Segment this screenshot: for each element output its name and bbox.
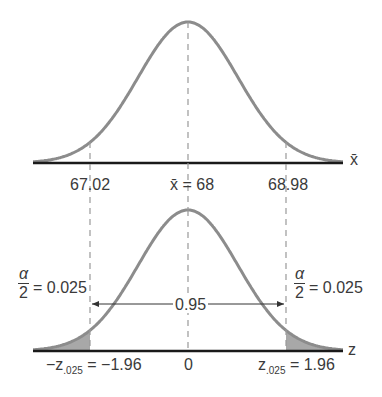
tick-label-z-lower: −z.025 = −1.96 [46, 357, 142, 376]
tick-label-mean: x̄ = 68 [170, 177, 214, 193]
top-axis-label: x̄ [350, 152, 358, 168]
top-distribution [33, 22, 343, 163]
alpha-half-right-fraction: α 2 [294, 266, 305, 301]
fraction-denominator: 2 [294, 284, 305, 301]
central-area-label: 0.95 [173, 297, 208, 313]
mean-value: = 68 [178, 176, 214, 193]
z-upper-value: = 1.96 [285, 356, 334, 373]
alpha-symbol: α [18, 266, 29, 284]
tick-label-zero: 0 [184, 357, 193, 373]
z-lower-value: = −1.96 [83, 356, 142, 373]
alpha-symbol: α [294, 266, 305, 284]
tick-label-lower: 67.02 [70, 177, 110, 193]
bottom-axis-label: z [348, 342, 356, 358]
alpha-half-right-value: = 0.025 [309, 280, 363, 296]
tick-label-z-upper: z.025 = 1.96 [258, 357, 335, 376]
alpha-half-left-fraction: α 2 [18, 266, 29, 301]
xbar-symbol: x̄ [170, 176, 178, 193]
z-subscript: .025 [266, 365, 285, 376]
alpha-half-left-value: = 0.025 [33, 280, 87, 296]
z-symbol: −z [46, 356, 63, 373]
fraction-denominator: 2 [18, 284, 29, 301]
tick-label-upper: 68.98 [268, 177, 308, 193]
z-symbol: z [258, 356, 266, 373]
z-subscript: .025 [63, 365, 82, 376]
diagram-canvas [0, 0, 382, 397]
